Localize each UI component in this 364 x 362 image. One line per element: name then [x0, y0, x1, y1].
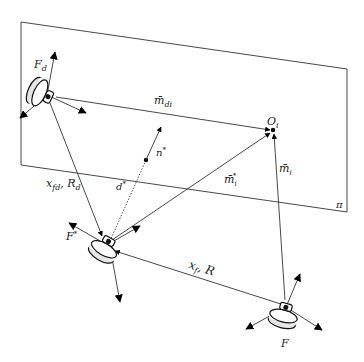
label-point-o-i: Oi: [267, 115, 279, 130]
label-frame-current: F: [280, 337, 289, 350]
label-m-i-star: m̄i*: [224, 172, 237, 188]
label-transform-desired: xfd, Rd: [46, 177, 81, 192]
point-o-i: [271, 128, 275, 132]
label-transform-current: xf, R: [187, 257, 217, 280]
transform-desired-to-reference: [50, 103, 102, 236]
label-frame-desired: Fd: [33, 58, 47, 73]
label-m-i: m̄i: [279, 162, 292, 177]
label-plane-pi: π: [335, 199, 343, 210]
vector-m-i-star: [112, 133, 270, 240]
label-distance-d-star: d*: [116, 180, 126, 192]
label-frame-reference: F*: [65, 230, 78, 243]
label-normal-n-star: n*: [156, 146, 166, 158]
camera-reference-icon: [69, 223, 140, 302]
camera-desired-icon: [20, 52, 86, 118]
label-m-di: m̄di: [154, 94, 173, 109]
transform-current-to-reference: [115, 251, 284, 305]
diagram-canvas: Fd m̄di Oi n* d* m̄i* m̄i π xfd, Rd F* x…: [0, 0, 364, 362]
vector-m-i: [274, 134, 285, 300]
